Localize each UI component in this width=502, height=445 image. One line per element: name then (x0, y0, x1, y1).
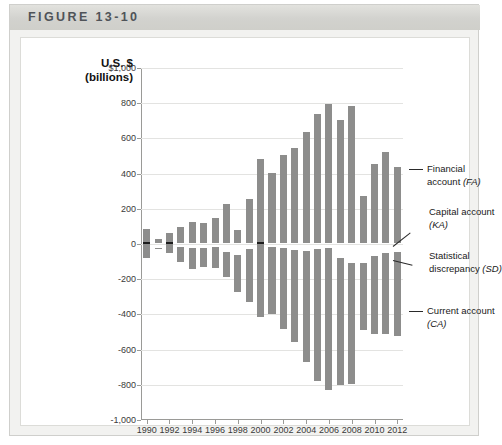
x-tick-mark-1996 (215, 420, 216, 424)
callout-ca-line2: (CA) (427, 318, 495, 331)
x-tick-label-2010: 2010 (365, 426, 385, 435)
x-tick-mark-2006 (329, 420, 330, 424)
x-tick-label-2004: 2004 (296, 426, 316, 435)
plot-area: $1,0008006004002000-200-400-600-800-1,00… (141, 68, 403, 420)
x-tick-mark-1992 (169, 420, 170, 424)
bar-1998-current-account (234, 255, 241, 293)
bar-2010-current-account (371, 256, 378, 334)
y-tick-mark-1000 (137, 68, 141, 69)
x-tick-mark-2012 (397, 420, 398, 424)
bar-1994-current-account (189, 248, 196, 269)
y-tick-mark--600 (137, 350, 141, 351)
callout-fa: Financialaccount (FA) (427, 163, 481, 188)
x-tick-label-1998: 1998 (228, 426, 248, 435)
bar-2008-financial-account (348, 106, 355, 243)
bar-2003-current-account (291, 250, 298, 342)
y-tick-mark-0 (137, 244, 141, 245)
callout-fa-line1: Financial (427, 163, 481, 176)
y-tick-label-600: 600 (121, 134, 136, 143)
callout-ca-line1: Current account (427, 305, 495, 318)
bar-1997-current-account (223, 252, 230, 277)
bar-1997-financial-account (223, 204, 230, 244)
bar-1999-current-account (246, 249, 253, 302)
bar-1998-financial-account (234, 230, 241, 243)
bar-2011-current-account (382, 253, 389, 334)
bar-1995-current-account (200, 248, 207, 267)
bar-2007-financial-account (337, 120, 344, 243)
bar-1993-financial-account (177, 227, 184, 243)
x-tick-label-2012: 2012 (387, 426, 407, 435)
x-tick-label-1994: 1994 (182, 426, 202, 435)
x-tick-label-2000: 2000 (251, 426, 271, 435)
chart-panel: U.S. $ (billions) $1,0008006004002000-20… (20, 37, 470, 426)
figure-card: FIGURE 13-10 U.S. $ (billions) $1,000800… (9, 4, 479, 436)
x-tick-mark-2004 (306, 420, 307, 424)
bar-1990-current-account (143, 244, 150, 258)
callout-ka-line2: (KA) (429, 219, 494, 232)
bar-2006-financial-account (325, 104, 332, 243)
y-tick-label-200: 200 (121, 204, 136, 213)
y-tick-label-0: 0 (131, 240, 136, 249)
gridline-0 (141, 244, 403, 245)
y-tick-mark--400 (137, 314, 141, 315)
callout-ka-line1: Capital account (429, 206, 494, 219)
y-tick-label--200: -200 (118, 275, 136, 284)
x-tick-mark-2000 (261, 420, 262, 424)
y-tick-label--400: -400 (118, 310, 136, 319)
y-tick-mark-800 (137, 103, 141, 104)
figure-title-banner: FIGURE 13-10 (10, 5, 480, 30)
bar-2000-current-account (257, 244, 264, 317)
x-tick-label-2008: 2008 (342, 426, 362, 435)
bar-1994-financial-account (189, 222, 196, 243)
callout-fa-line2: account (FA) (427, 176, 481, 189)
callout-ca: Current account(CA) (427, 305, 495, 330)
bar-2012-financial-account (394, 167, 401, 243)
bar-2007-current-account (337, 258, 344, 385)
bar-2012-current-account (394, 252, 401, 336)
bar-1996-financial-account (212, 218, 219, 244)
gridline--600 (141, 350, 403, 351)
gridline-1000 (141, 68, 403, 69)
bar-2005-financial-account (314, 114, 321, 243)
bar-2001-financial-account (268, 173, 275, 243)
y-tick-label--600: -600 (118, 345, 136, 354)
gridline--800 (141, 385, 403, 386)
callout-sd: Statisticaldiscrepancy (SD) (429, 250, 502, 275)
x-tick-mark-1998 (238, 420, 239, 424)
bar-2008-current-account (348, 263, 355, 384)
x-tick-label-2006: 2006 (319, 426, 339, 435)
y-tick-mark-400 (137, 174, 141, 175)
bar-2010-financial-account (371, 164, 378, 243)
bar-2002-current-account (280, 248, 287, 329)
bar-2009-financial-account (360, 196, 367, 244)
bar-2000-financial-account (257, 159, 264, 243)
x-tick-label-2002: 2002 (273, 426, 293, 435)
bar-1992-current-account (166, 244, 173, 253)
figure-label: FIGURE 13-10 (28, 10, 139, 24)
x-tick-mark-2002 (283, 420, 284, 424)
bar-2001-current-account (268, 247, 275, 315)
x-tick-label-1996: 1996 (205, 426, 225, 435)
bar-1991-financial-account (155, 239, 162, 243)
y-tick-mark--200 (137, 279, 141, 280)
bar-2006-current-account (325, 248, 332, 390)
bar-2003-financial-account (291, 148, 298, 243)
y-tick-label--1000: -1,000 (110, 416, 136, 425)
bar-1995-financial-account (200, 223, 207, 243)
y-tick-label-800: 800 (121, 99, 136, 108)
y-tick-mark--1000 (137, 420, 141, 421)
y-tick-label-1000: $1,000 (108, 64, 136, 73)
callout-sd-line2: discrepancy (SD) (429, 263, 502, 276)
bar-2004-financial-account (303, 132, 310, 243)
bar-1993-current-account (177, 247, 184, 262)
gridline-800 (141, 103, 403, 104)
x-tick-label-1992: 1992 (159, 426, 179, 435)
bar-2009-current-account (360, 263, 367, 330)
leader-line-fa (409, 169, 423, 170)
bar-2005-current-account (314, 249, 321, 381)
callout-sd-line1: Statistical (429, 250, 502, 263)
y-tick-mark--800 (137, 385, 141, 386)
bar-2011-financial-account (382, 152, 389, 244)
x-tick-mark-1994 (192, 420, 193, 424)
y-tick-label--800: -800 (118, 380, 136, 389)
